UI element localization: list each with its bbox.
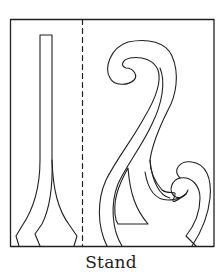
scroll-inner-spike — [115, 168, 148, 224]
scroll-bottom-curl-arc — [177, 162, 211, 246]
figure-caption: Stand — [0, 252, 222, 272]
scroll-bottom-curl — [145, 172, 200, 246]
vase-right-side — [52, 160, 77, 246]
stand-pattern-diagram — [0, 0, 222, 277]
scroll-piece-outer — [99, 41, 186, 246]
vase-stem-piece — [16, 35, 52, 246]
